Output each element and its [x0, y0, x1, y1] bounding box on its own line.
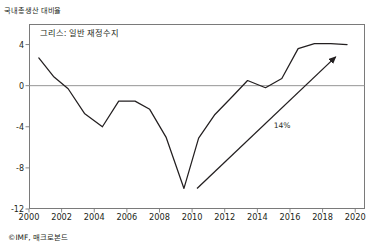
data-series-line	[39, 44, 347, 189]
x-tick-label: 2012	[214, 212, 235, 222]
x-tick-label: 2020	[345, 212, 366, 222]
x-tick-label: 2002	[51, 212, 72, 222]
y-tick-label: 4	[2, 40, 24, 49]
x-tick-label: 2000	[19, 212, 40, 222]
x-tick-label: 2008	[149, 212, 170, 222]
x-tick-label: 2004	[84, 212, 105, 222]
y-tick-label: 0	[2, 81, 24, 90]
y-tick-label: -4	[2, 122, 24, 131]
x-tick-label: 2006	[116, 212, 137, 222]
trend-arrow-annotation	[197, 57, 336, 189]
chart-root: 국내총생산 대비율 그리스: 일반 재정수지 40-4-8-12 2000200…	[0, 0, 373, 247]
x-tick-label: 2018	[312, 212, 333, 222]
x-tick-label: 2014	[247, 212, 268, 222]
x-tick-label: 2016	[280, 212, 301, 222]
y-tick-label: -8	[2, 163, 24, 172]
axis-ticks	[26, 45, 356, 213]
plot-canvas	[0, 0, 373, 247]
source-note: ©IMF, 매크로본드	[8, 231, 68, 242]
x-tick-label: 2010	[182, 212, 203, 222]
annotation-label: 14%	[274, 121, 291, 130]
